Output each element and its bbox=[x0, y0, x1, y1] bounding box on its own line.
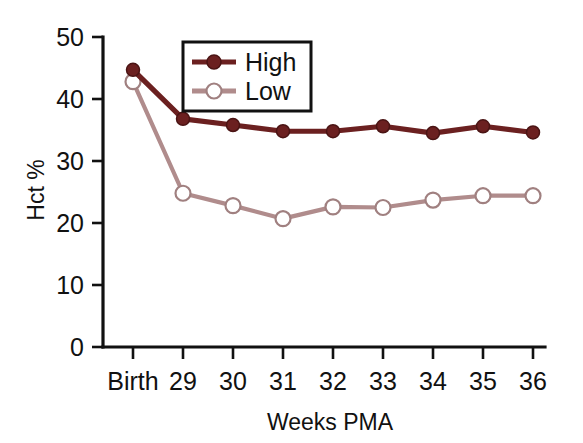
y-tick-label-40: 40 bbox=[56, 85, 84, 113]
data-point bbox=[176, 186, 191, 201]
data-point bbox=[477, 120, 490, 133]
legend-label-high: High bbox=[245, 48, 296, 76]
y-tick-label-50: 50 bbox=[56, 23, 84, 51]
y-tick-label-10: 10 bbox=[56, 271, 84, 299]
x-tick-label-30: 30 bbox=[219, 367, 247, 395]
data-point bbox=[177, 112, 190, 125]
x-tick-label-31: 31 bbox=[269, 367, 297, 395]
chart-container: 50 40 30 20 10 0 Hct % Birth 29 30 31 32… bbox=[0, 0, 583, 443]
y-tick-marks bbox=[92, 37, 103, 347]
data-point bbox=[226, 198, 241, 213]
legend-marker-low bbox=[207, 84, 222, 99]
data-point bbox=[426, 193, 441, 208]
data-point bbox=[427, 127, 440, 140]
data-point bbox=[376, 200, 391, 215]
x-tick-marks bbox=[133, 347, 533, 359]
legend-marker-high bbox=[207, 55, 221, 69]
x-tick-label-33: 33 bbox=[369, 367, 397, 395]
data-point bbox=[227, 119, 240, 132]
data-point bbox=[476, 188, 491, 203]
x-tick-label-birth: Birth bbox=[107, 367, 158, 395]
data-point bbox=[277, 125, 290, 138]
legend: High Low bbox=[183, 42, 311, 111]
data-point bbox=[377, 120, 390, 133]
x-tick-label-34: 34 bbox=[419, 367, 447, 395]
x-tick-label-36: 36 bbox=[519, 367, 547, 395]
data-point bbox=[127, 63, 140, 76]
data-point bbox=[326, 199, 341, 214]
y-tick-label-0: 0 bbox=[70, 333, 84, 361]
x-axis-title: Weeks PMA bbox=[267, 409, 394, 435]
data-point bbox=[526, 188, 541, 203]
data-point bbox=[327, 125, 340, 138]
x-tick-label-32: 32 bbox=[319, 367, 347, 395]
data-point bbox=[527, 126, 540, 139]
hct-line-chart: 50 40 30 20 10 0 Hct % Birth 29 30 31 32… bbox=[0, 0, 583, 443]
y-tick-label-20: 20 bbox=[56, 209, 84, 237]
legend-label-low: Low bbox=[245, 77, 292, 105]
data-point bbox=[276, 211, 291, 226]
y-tick-label-30: 30 bbox=[56, 147, 84, 175]
x-tick-label-29: 29 bbox=[169, 367, 197, 395]
y-axis-title: Hct % bbox=[23, 159, 49, 220]
x-tick-label-35: 35 bbox=[469, 367, 497, 395]
